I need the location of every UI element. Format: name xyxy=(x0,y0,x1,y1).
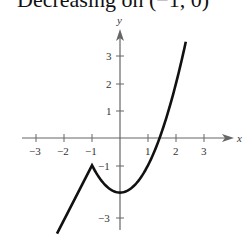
svg-text:2: 2 xyxy=(173,145,179,157)
svg-text:−1: −1 xyxy=(98,160,110,172)
y-tick-labels: 3 2 1 −1 −3 xyxy=(98,50,112,224)
x-tick-labels: −3 −2 −1 1 2 3 xyxy=(29,145,207,157)
function-graph: x y −3 −2 −1 1 2 3 3 2 1 −1 −3 xyxy=(0,0,249,238)
svg-text:1: 1 xyxy=(106,105,112,117)
svg-text:−3: −3 xyxy=(98,212,110,224)
svg-text:1: 1 xyxy=(145,145,151,157)
svg-text:−2: −2 xyxy=(57,145,69,157)
svg-text:2: 2 xyxy=(106,78,112,90)
svg-text:−3: −3 xyxy=(29,145,41,157)
y-axis-label: y xyxy=(116,14,122,26)
svg-text:3: 3 xyxy=(106,50,112,62)
svg-text:−1: −1 xyxy=(85,145,97,157)
x-axis-label: x xyxy=(236,132,242,144)
svg-text:3: 3 xyxy=(201,145,207,157)
